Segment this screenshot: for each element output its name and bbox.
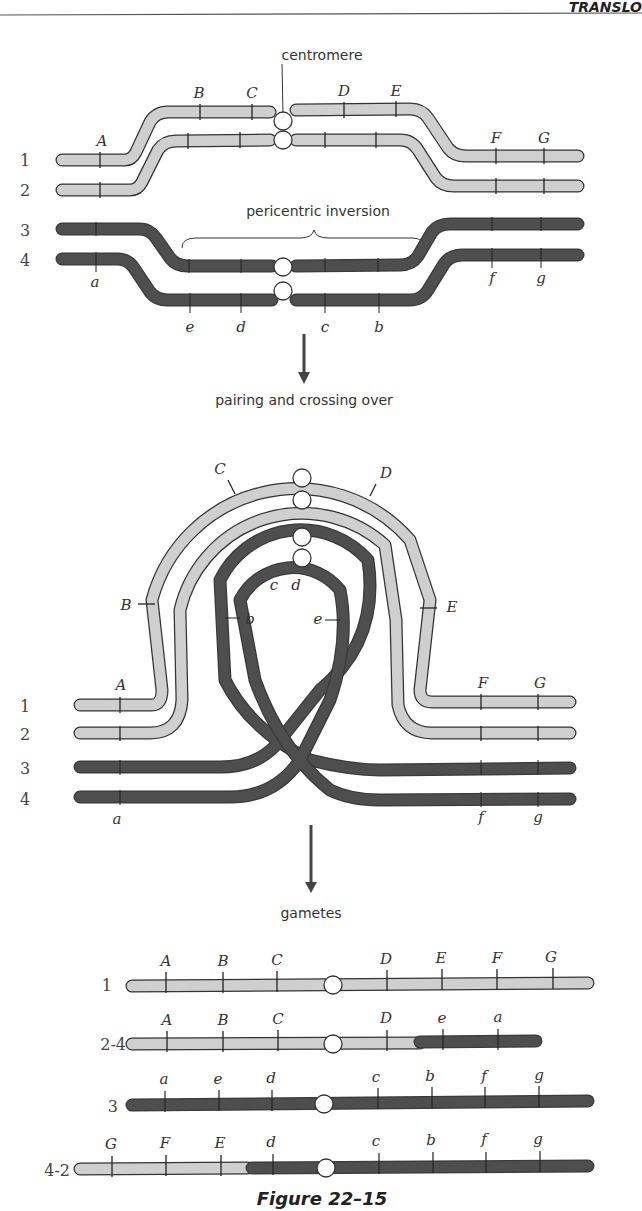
gene-label: B: [192, 84, 204, 102]
gene-label: c: [321, 318, 330, 336]
gene-label: b: [374, 318, 384, 336]
chromatid-number: 3: [20, 759, 30, 778]
gene-label: G: [534, 674, 546, 692]
pairing-label: pairing and crossing over: [215, 392, 393, 408]
header-rule: [0, 13, 642, 15]
gene-label: G: [538, 129, 550, 147]
gene-label: c: [372, 1132, 381, 1150]
centromere: [324, 976, 342, 994]
gene-label: f: [480, 1130, 489, 1148]
gene-label: a: [113, 810, 122, 828]
gene-label: A: [114, 676, 127, 694]
gene-label: f: [480, 1067, 489, 1085]
centromere: [293, 549, 311, 567]
gene-label: E: [390, 82, 402, 100]
gene-label: e: [438, 1009, 447, 1027]
gene-label: E: [435, 949, 447, 967]
centromere: [293, 528, 311, 546]
gene-label: g: [533, 1130, 543, 1148]
gene-label: a: [160, 1070, 169, 1088]
gamete-2-4: 2-4 A B C D e a: [100, 1008, 536, 1054]
inversion-bracket: [182, 230, 424, 248]
chromatid-number: 2: [20, 181, 30, 200]
gamete-number: 1: [102, 976, 112, 995]
gene-label: b: [245, 610, 255, 628]
gene-label: F: [491, 949, 503, 967]
gamete-4-2: 4-2 G F E d c b f g: [44, 1130, 588, 1180]
gene-label: e: [186, 318, 195, 336]
centromere: [274, 131, 292, 149]
gene-label: C: [214, 460, 226, 478]
gene-label: C: [246, 84, 258, 102]
gene-label: b: [425, 1067, 435, 1085]
gene-label: a: [91, 273, 100, 291]
gene-label: A: [160, 1011, 173, 1029]
gene-label: c: [270, 576, 279, 594]
gamete-number: 4-2: [44, 1161, 70, 1180]
centromere: [274, 282, 292, 300]
gene-label: c: [372, 1068, 381, 1086]
gamete-3: 3 a e d c b f g: [108, 1066, 588, 1116]
pericentric-inversion-label: pericentric inversion: [246, 203, 390, 219]
gene-label: F: [477, 674, 489, 692]
chromatid-4-top: [62, 248, 578, 313]
gene-label: E: [446, 598, 458, 616]
gene-label: F: [490, 129, 502, 147]
middle-panel: C D B E c d b e A F G a f g 1 2 3 4: [20, 460, 570, 828]
gene-label: G: [545, 948, 557, 966]
centromere: [324, 1035, 342, 1053]
gene-label: C: [272, 1010, 284, 1028]
top-panel: centromere: [20, 47, 578, 336]
gene-label: A: [159, 952, 172, 970]
chromatid-number: 2: [20, 725, 30, 744]
arrow-gametes: gametes: [280, 825, 341, 921]
gene-label: D: [379, 950, 392, 968]
gene-label: d: [236, 318, 246, 336]
centromere: [293, 469, 311, 487]
centromere: [274, 258, 292, 276]
arrow-pairing: pairing and crossing over: [215, 334, 393, 408]
gene-label: d: [266, 1133, 276, 1151]
gene-label: d: [291, 576, 301, 594]
chromatid-number: 1: [20, 697, 30, 716]
centromere-label: centromere: [282, 47, 363, 63]
centromere-pointer: [282, 64, 283, 115]
inversion-crossover-diagram: TRANSLO centromere: [0, 0, 642, 1211]
centromere: [293, 491, 311, 509]
gene-label: g: [534, 1066, 544, 1084]
gamete-1: 1 A B C D E F G: [102, 948, 588, 995]
chromatid-number: 4: [20, 251, 30, 270]
gene-label: f: [488, 269, 497, 287]
gene-label: A: [95, 132, 108, 150]
gene-label: D: [337, 82, 350, 100]
gene-label: a: [494, 1008, 503, 1026]
figure-caption: Figure 22–15: [257, 1188, 388, 1209]
gene-label: g: [536, 269, 546, 287]
gametes-label: gametes: [280, 905, 341, 921]
chromatid-number: 4: [20, 790, 30, 809]
gene-label: d: [266, 1069, 276, 1087]
gene-label: f: [477, 808, 486, 826]
chromatid-number: 1: [20, 151, 30, 170]
gene-label: G: [105, 1135, 117, 1153]
gene-label: b: [426, 1131, 436, 1149]
centromere: [317, 1159, 335, 1177]
gene-label: D: [379, 1009, 392, 1027]
gamete-number: 2-4: [100, 1035, 126, 1054]
gene-label: F: [159, 1134, 171, 1152]
gene-label: D: [379, 464, 392, 482]
chromatid-number: 3: [20, 221, 30, 240]
centromere: [274, 112, 292, 130]
gene-label: E: [214, 1134, 226, 1152]
gene-label: B: [119, 596, 131, 614]
gamete-number: 3: [108, 1097, 118, 1116]
gene-label: C: [271, 951, 283, 969]
gene-label: B: [216, 1011, 228, 1029]
gene-label: e: [314, 610, 323, 628]
centromere: [315, 1095, 333, 1113]
gene-label: g: [533, 808, 543, 826]
gene-label: e: [214, 1070, 223, 1088]
gene-label: B: [216, 952, 228, 970]
